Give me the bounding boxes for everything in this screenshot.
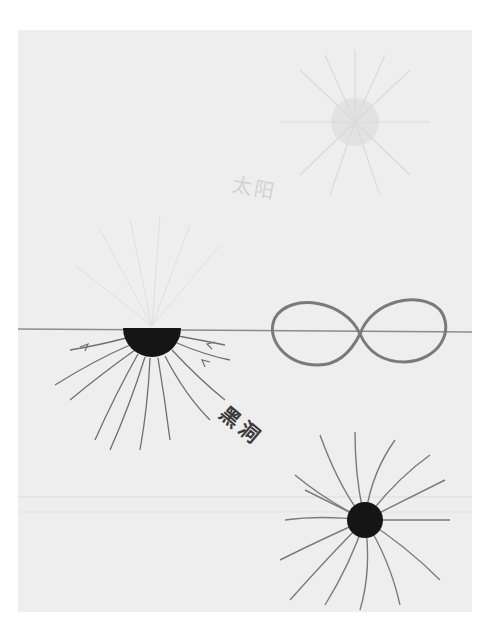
drawing-canvas	[0, 0, 480, 626]
faint-light-rays	[75, 215, 220, 326]
horizon-line	[18, 329, 472, 332]
sun-icon	[280, 50, 430, 195]
black-hole-core	[347, 502, 383, 538]
